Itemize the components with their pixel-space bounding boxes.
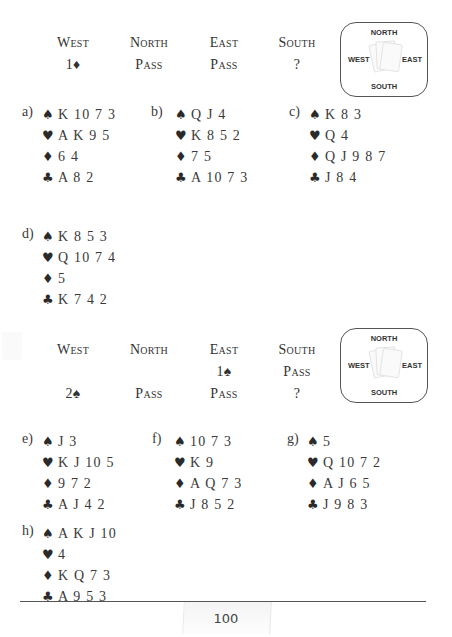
spades-holding: 5: [323, 434, 331, 449]
auction-1-south-column: South ?: [257, 32, 337, 76]
diamond-icon: ♦: [42, 146, 58, 167]
heart-icon: ♥: [42, 247, 58, 268]
clubs-holding: A 8 2: [58, 170, 94, 185]
diamonds-holding: Q J 9 8 7: [325, 149, 386, 164]
auction-1-east-column: East Pass: [184, 32, 264, 76]
spade-icon: ♠: [175, 104, 191, 125]
compass-diagram: NORTH WEST EAST SOUTH: [340, 22, 428, 97]
clubs-holding: A 10 7 3: [191, 170, 248, 185]
club-icon: ♣: [42, 289, 58, 310]
compass-diagram: NORTH WEST EAST SOUTH: [340, 328, 428, 403]
hearts-holding: Q 10 7 4: [58, 250, 116, 265]
auction-header-south: South: [257, 339, 337, 361]
diamond-icon: ♦: [42, 565, 58, 586]
compass-west-label: WEST: [348, 55, 370, 64]
clubs-holding: J 9 8 3: [323, 497, 368, 512]
cards-icon: [371, 345, 399, 385]
spade-icon: ♠: [307, 431, 323, 452]
heart-icon: ♥: [42, 544, 58, 565]
auction-bid: ?: [257, 383, 337, 405]
heart-icon: ♥: [174, 452, 190, 473]
spades-holding: A K J 10: [58, 526, 117, 541]
diamond-icon: ♦: [307, 473, 323, 494]
hand-label: g): [287, 431, 299, 447]
auction-header-west: West: [33, 339, 113, 361]
hand-label: d): [22, 226, 34, 242]
background-bleed-mark: [2, 332, 22, 360]
clubs-holding: J 8 5 2: [190, 497, 235, 512]
diamond-icon: ♦: [174, 473, 190, 494]
compass-south-label: SOUTH: [341, 388, 427, 397]
auction-header-south: South: [257, 32, 337, 54]
hearts-holding: 4: [58, 547, 66, 562]
auction-header-north: North: [109, 339, 189, 361]
spades-holding: K 10 7 3: [58, 107, 116, 122]
hearts-holding: K J 10 5: [58, 455, 115, 470]
club-icon: ♣: [42, 167, 58, 188]
compass-east-label: EAST: [402, 361, 422, 370]
hearts-holding: K 9: [190, 455, 214, 470]
hand-label: f): [152, 431, 161, 447]
auction-header-north: North: [109, 32, 189, 54]
auction-bid: Pass: [109, 54, 189, 76]
club-icon: ♣: [42, 586, 58, 607]
auction-bid: 1♠: [184, 361, 264, 383]
hearts-holding: Q 4: [325, 128, 349, 143]
club-icon: ♣: [174, 494, 190, 515]
auction-bid: Pass: [184, 383, 264, 405]
hearts-holding: Q 10 7 2: [323, 455, 381, 470]
diamonds-holding: 7 5: [191, 149, 212, 164]
hand-label: e): [22, 431, 33, 447]
auction-bid: 1♦: [33, 54, 113, 76]
clubs-holding: A J 4 2: [58, 497, 106, 512]
hand-label: b): [151, 104, 163, 120]
diamonds-holding: A Q 7 3: [190, 476, 242, 491]
heart-icon: ♥: [307, 452, 323, 473]
auction-header-east: East: [184, 339, 264, 361]
compass-east-label: EAST: [402, 55, 422, 64]
diamond-icon: ♦: [42, 473, 58, 494]
compass-south-label: SOUTH: [341, 82, 427, 91]
auction-2-north-column: North Pass: [109, 339, 189, 405]
auction-bid: [33, 361, 113, 383]
hearts-holding: A K 9 5: [58, 128, 110, 143]
diamonds-holding: A J 6 5: [323, 476, 371, 491]
spade-icon: ♠: [42, 523, 58, 544]
compass-north-label: NORTH: [341, 334, 427, 343]
compass-west-label: WEST: [348, 361, 370, 370]
auction-bid: [109, 361, 189, 383]
diamonds-holding: 9 7 2: [58, 476, 92, 491]
auction-1-west-column: West 1♦: [33, 32, 113, 76]
heart-icon: ♥: [42, 125, 58, 146]
heart-icon: ♥: [42, 452, 58, 473]
club-icon: ♣: [42, 494, 58, 515]
spades-holding: K 8 5 3: [58, 229, 108, 244]
spade-icon: ♠: [42, 431, 58, 452]
hand-label: c): [289, 104, 300, 120]
auction-2-west-column: West 2♠: [33, 339, 113, 405]
auction-bid: Pass: [184, 54, 264, 76]
diamond-icon: ♦: [175, 146, 191, 167]
auction-bid: Pass: [109, 383, 189, 405]
compass-north-label: NORTH: [341, 28, 427, 37]
club-icon: ♣: [175, 167, 191, 188]
diamond-icon: ♦: [309, 146, 325, 167]
spade-icon: ♠: [42, 226, 58, 247]
auction-bid: Pass: [257, 361, 337, 383]
spades-holding: J 3: [58, 434, 78, 449]
clubs-holding: J 8 4: [325, 170, 357, 185]
diamonds-holding: 6 4: [58, 149, 79, 164]
auction-2-east-column: East 1♠ Pass: [184, 339, 264, 405]
spade-icon: ♠: [309, 104, 325, 125]
auction-header-west: West: [33, 32, 113, 54]
hearts-holding: K 8 5 2: [191, 128, 241, 143]
club-icon: ♣: [309, 167, 325, 188]
spade-icon: ♠: [174, 431, 190, 452]
auction-1-north-column: North Pass: [109, 32, 189, 76]
clubs-holding: K 7 4 2: [58, 292, 108, 307]
spades-holding: 10 7 3: [190, 434, 232, 449]
diamond-icon: ♦: [42, 268, 58, 289]
auction-2-south-column: South Pass ?: [257, 339, 337, 405]
auction-header-east: East: [184, 32, 264, 54]
diamonds-holding: 5: [58, 271, 66, 286]
